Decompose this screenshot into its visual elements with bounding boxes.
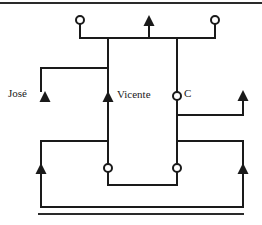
circle-top-left (76, 16, 84, 24)
circle-bottom-right (173, 164, 181, 172)
wire-group (41, 23, 243, 207)
circle-bottom-left (104, 164, 112, 172)
wire-top-bus (80, 24, 215, 38)
wire-right-upper-branch (177, 98, 243, 115)
wire-right-lower-loop (177, 141, 243, 207)
label-vicente: Vicente (117, 89, 151, 100)
label-jose: José (8, 88, 27, 99)
arrow-top-center (144, 15, 155, 26)
arrow-jose (40, 91, 51, 102)
wire-left-lower-loop (41, 141, 243, 207)
arrow-left-lower (36, 163, 47, 174)
label-c: C (184, 88, 191, 99)
diagram-svg (0, 0, 262, 225)
arrow-right-lower (238, 163, 249, 174)
arrow-right-upper (238, 90, 249, 101)
circle-top-right (211, 16, 219, 24)
diagram-canvas: José Vicente C (0, 0, 262, 225)
circle-node-c (173, 92, 181, 100)
wire-bottom-bridge (108, 172, 177, 185)
wire-jose-branch (41, 68, 108, 91)
arrow-vicente (103, 91, 114, 102)
